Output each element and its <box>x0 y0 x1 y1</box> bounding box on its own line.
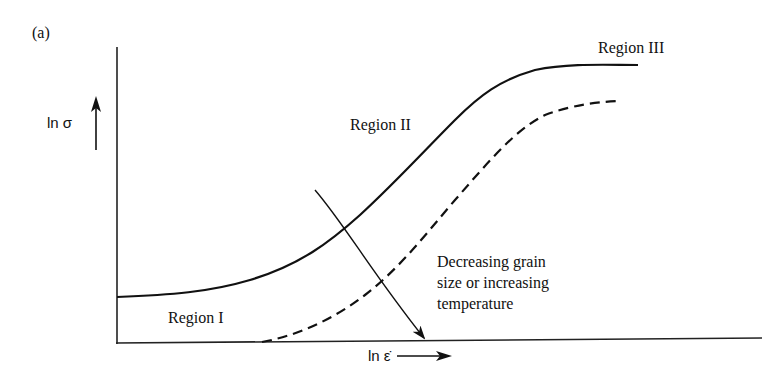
annotation-line-3: temperature <box>437 293 549 314</box>
region-3-label: Region III <box>598 39 664 57</box>
x-axis <box>116 338 762 343</box>
y-axis-arrow-icon <box>91 96 101 150</box>
annotation-line-1: Decreasing grain <box>437 251 549 272</box>
annotation-line-2: size or increasing <box>437 272 549 293</box>
x-axis-arrow-icon <box>397 351 452 361</box>
shift-arrow-icon <box>315 190 424 338</box>
shift-annotation: Decreasing grain size or increasing temp… <box>437 251 549 314</box>
stress-strain-rate-diagram <box>0 0 783 384</box>
solid-curve <box>117 65 638 297</box>
region-1-label: Region I <box>168 309 224 327</box>
x-axis-label: ln ε̇ <box>368 347 391 364</box>
y-axis-label: ln σ <box>47 114 72 131</box>
panel-label: (a) <box>32 24 50 42</box>
region-2-label: Region II <box>350 116 411 134</box>
